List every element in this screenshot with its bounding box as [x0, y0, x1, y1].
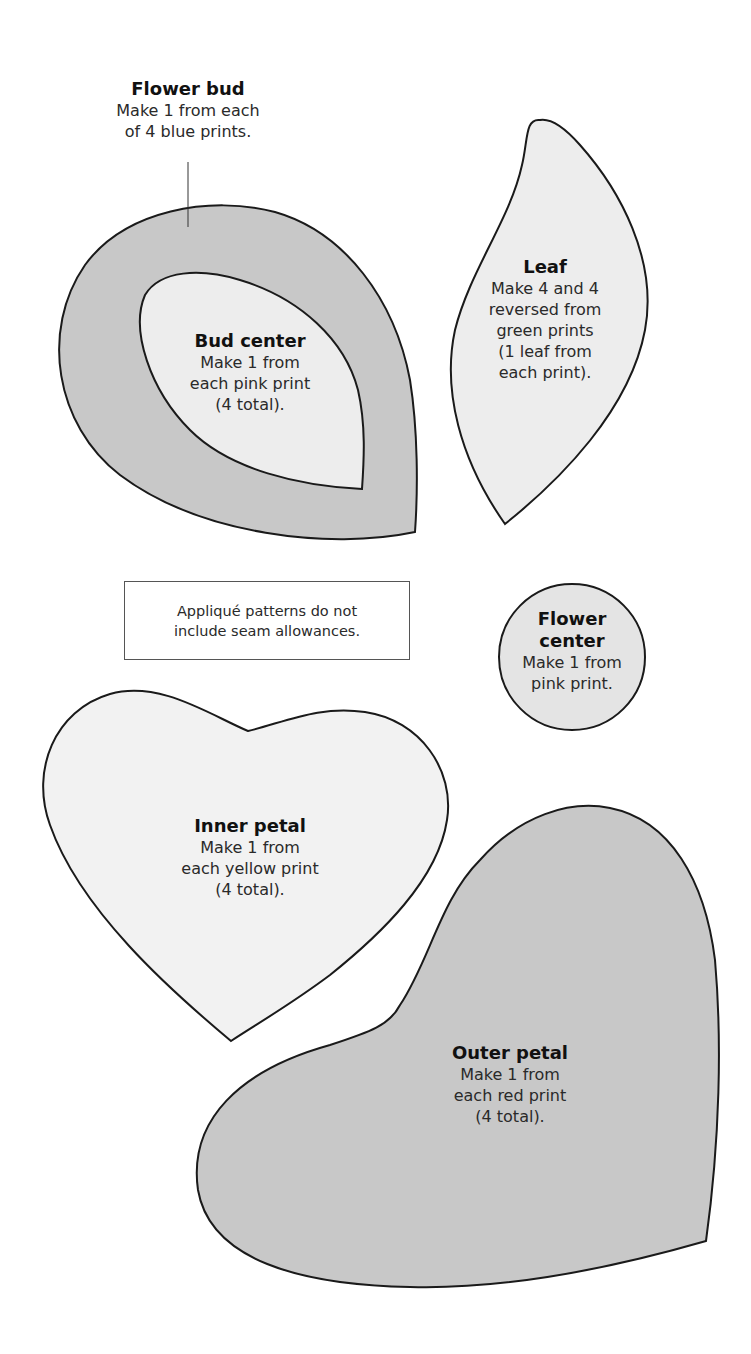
- bud-center-line-3: (4 total).: [170, 394, 330, 415]
- outer-petal-line-2: each red print: [420, 1085, 600, 1106]
- outer-petal-line-1: Make 1 from: [420, 1064, 600, 1085]
- note-line-2: include seam allowances.: [174, 621, 360, 641]
- leaf-title: Leaf: [470, 256, 620, 278]
- leaf-line-5: each print).: [470, 362, 620, 383]
- leaf-line-2: reversed from: [470, 299, 620, 320]
- flower-center-title-1: Flower: [507, 608, 637, 630]
- inner-petal-title: Inner petal: [160, 815, 340, 837]
- leaf-line-4: (1 leaf from: [470, 341, 620, 362]
- flower-center-label: Flower center Make 1 from pink print.: [507, 608, 637, 694]
- pattern-shapes: [0, 0, 751, 1354]
- outer-petal-label: Outer petal Make 1 from each red print (…: [420, 1042, 600, 1127]
- bud-center-line-2: each pink print: [170, 373, 330, 394]
- bud-center-line-1: Make 1 from: [170, 352, 330, 373]
- flower-center-line-1: Make 1 from: [507, 652, 637, 673]
- seam-allowance-note: Appliqué patterns do not include seam al…: [124, 581, 410, 660]
- note-line-1: Appliqué patterns do not: [174, 601, 360, 621]
- leaf-label: Leaf Make 4 and 4 reversed from green pr…: [470, 256, 620, 383]
- inner-petal-line-1: Make 1 from: [160, 837, 340, 858]
- flower-bud-title: Flower bud: [98, 78, 278, 100]
- outer-petal-line-3: (4 total).: [420, 1106, 600, 1127]
- flower-center-line-2: pink print.: [507, 673, 637, 694]
- inner-petal-line-2: each yellow print: [160, 858, 340, 879]
- leaf-line-3: green prints: [470, 320, 620, 341]
- inner-petal-label: Inner petal Make 1 from each yellow prin…: [160, 815, 340, 900]
- inner-petal-line-3: (4 total).: [160, 879, 340, 900]
- bud-center-title: Bud center: [170, 330, 330, 352]
- leaf-line-1: Make 4 and 4: [470, 278, 620, 299]
- outer-petal-title: Outer petal: [420, 1042, 600, 1064]
- bud-center-label: Bud center Make 1 from each pink print (…: [170, 330, 330, 415]
- flower-bud-line-1: Make 1 from each: [98, 100, 278, 121]
- flower-bud-line-2: of 4 blue prints.: [98, 121, 278, 142]
- flower-bud-label: Flower bud Make 1 from each of 4 blue pr…: [98, 78, 278, 142]
- flower-center-title-2: center: [507, 630, 637, 652]
